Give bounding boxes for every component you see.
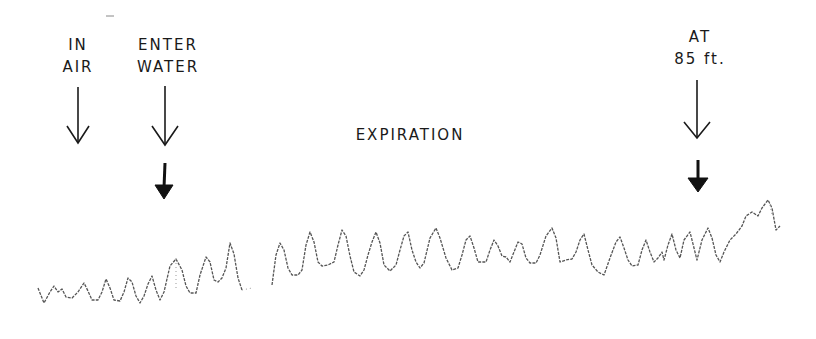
open-arrow-icon-at-depth	[684, 80, 710, 138]
respiration-trace	[272, 200, 780, 285]
respiration-trace	[38, 243, 242, 303]
waveform-chart	[0, 0, 816, 339]
solid-arrow-icon-enter-water	[155, 163, 173, 199]
open-arrow-icon-enter-water	[152, 86, 178, 145]
open-arrow-icon-in-air	[67, 87, 89, 143]
solid-arrow-icon-at-depth	[688, 160, 708, 192]
